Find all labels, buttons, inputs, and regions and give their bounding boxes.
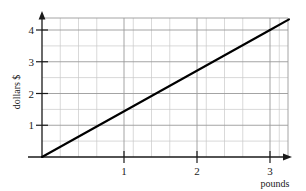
y-axis-title: dollars $: [11, 75, 22, 110]
y-tick-label-2: 2: [29, 88, 35, 100]
y-tick-label-4: 4: [29, 24, 35, 36]
x-tick-label-3: 3: [267, 165, 273, 177]
chart-canvas: 4 3 2 1 1 2 3 dollars $ pounds: [0, 0, 306, 191]
x-tick-label-1: 1: [121, 165, 127, 177]
y-tick-label-3: 3: [29, 56, 35, 68]
x-axis-title: pounds: [261, 178, 290, 189]
x-tick-label-2: 2: [194, 165, 200, 177]
y-tick-label-1: 1: [29, 119, 35, 131]
line-chart: 4 3 2 1 1 2 3 dollars $ pounds: [0, 0, 306, 191]
